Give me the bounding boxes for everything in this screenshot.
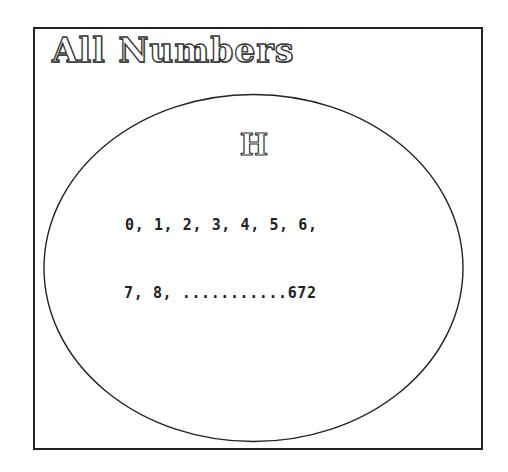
venn-svg [0,0,508,472]
venn-diagram: All Numbers H 0, 1, 2, 3, 4, 5, 6, 7, 8,… [0,0,508,472]
set-h-members-line-2: 7, 8, ...........672 [124,284,317,302]
set-h-members-line-1: 0, 1, 2, 3, 4, 5, 6, [125,216,318,234]
set-h-label: H [0,127,508,162]
